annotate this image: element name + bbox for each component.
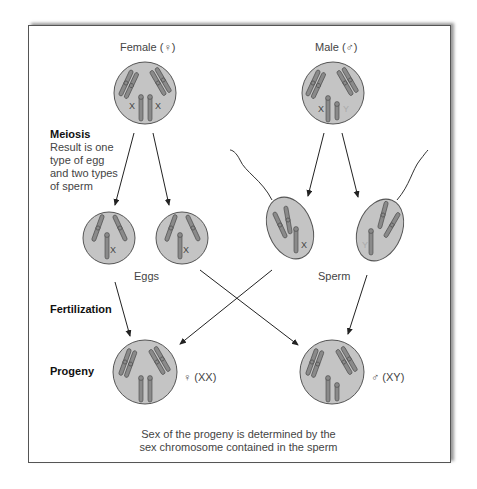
female-parent-cell — [114, 62, 176, 124]
fertilization-label: Fertilization — [50, 303, 112, 315]
female-label: Female (♀) — [120, 41, 175, 53]
sperm2-y: Y — [362, 240, 368, 250]
male-label: Male (♂) — [315, 41, 357, 53]
meiosis-diagram — [0, 0, 477, 489]
progeny-female-label: ♀ (XX) — [183, 371, 216, 383]
egg1-x: X — [110, 245, 116, 255]
male-y: Y — [343, 104, 349, 114]
sperm-label: Sperm — [318, 270, 350, 282]
progeny-male-label: ♂ (XY) — [371, 371, 404, 383]
egg2-x: X — [183, 245, 189, 255]
arrows — [115, 133, 367, 345]
female-x-right: X — [155, 101, 161, 111]
meiosis-description: Result is one type of egg and two types … — [50, 141, 118, 193]
female-x-left: X — [129, 101, 135, 111]
eggs-label: Eggs — [134, 270, 159, 282]
progeny-female-cell — [113, 340, 177, 404]
caption: Sex of the progeny is determined by the … — [0, 428, 477, 454]
sperm-1 — [230, 150, 322, 266]
progeny-label: Progeny — [50, 365, 94, 377]
male-x: X — [318, 104, 324, 114]
meiosis-title: Meiosis — [50, 128, 90, 140]
sperm-2 — [348, 150, 428, 268]
progeny-male-cell — [300, 340, 364, 404]
egg-2 — [156, 212, 208, 264]
male-parent-cell — [302, 62, 364, 124]
egg-1 — [83, 212, 135, 264]
sperm1-x: X — [301, 240, 307, 250]
